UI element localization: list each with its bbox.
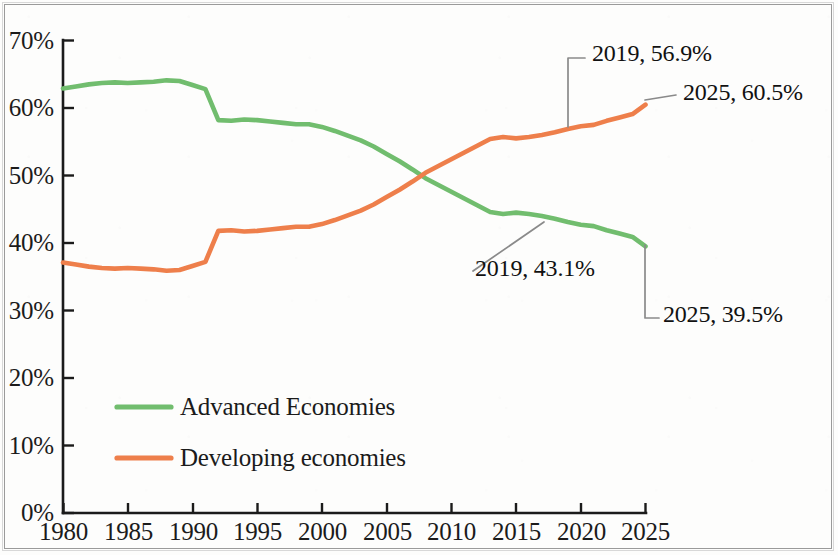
annotation-advanced-2019: 2019, 43.1% [475, 255, 595, 282]
y-tick-label-20: 20% [2, 364, 54, 392]
series-line-advanced-economies [63, 80, 646, 246]
leader-line-adv-2025 [645, 245, 659, 318]
y-tick-label-50: 50% [2, 162, 54, 190]
legend-label-developing: Developing economies [180, 444, 406, 472]
leader-line-dev-2019 [568, 58, 585, 127]
legend-label-advanced: Advanced Economies [180, 393, 395, 421]
series-line-developing-economies [63, 105, 646, 271]
x-tick-label-2025: 2025 [603, 518, 688, 546]
y-tick-label-60: 60% [2, 94, 54, 122]
annotation-developing-2025: 2025, 60.5% [683, 79, 803, 106]
y-tick-label-10: 10% [2, 432, 54, 460]
y-axis-ticks [63, 41, 74, 514]
leader-line-dev-2025 [645, 95, 676, 100]
y-tick-label-40: 40% [2, 229, 54, 257]
x-axis-ticks [64, 503, 646, 513]
chart-page: 70% 60% 50% 40% 30% 20% 10% 0% 1980 1985… [0, 0, 838, 555]
legend-swatches [117, 407, 171, 458]
data-series-layer [63, 80, 646, 270]
y-tick-label-70: 70% [2, 27, 54, 55]
annotation-developing-2019: 2019, 56.9% [592, 40, 712, 67]
y-tick-label-30: 30% [2, 297, 54, 325]
annotation-advanced-2025: 2025, 39.5% [663, 301, 783, 328]
